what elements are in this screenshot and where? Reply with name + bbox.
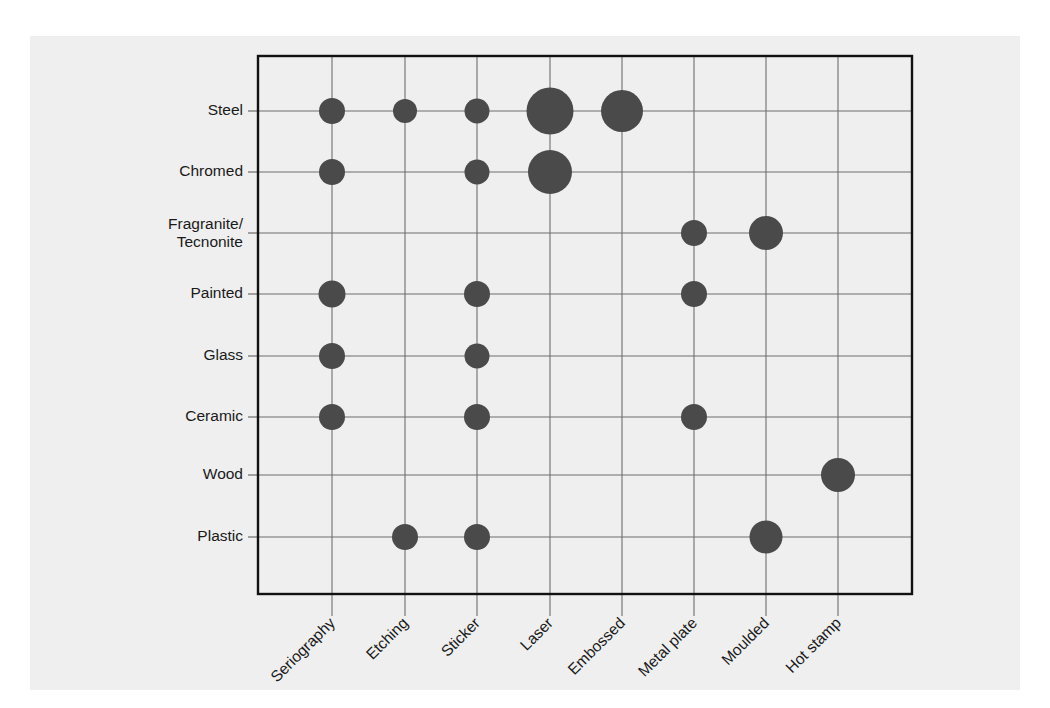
bubble-chromed-seriography[interactable]	[319, 159, 345, 185]
x-axis-label-moulded: Moulded	[718, 614, 772, 668]
x-axis-label-laser: Laser	[517, 614, 556, 653]
bubble-ceramic-metal-plate[interactable]	[681, 404, 707, 430]
x-axis-label-sticker: Sticker	[438, 614, 484, 660]
bubble-matrix-svg: SteelChromedFragranite/TecnonitePaintedG…	[0, 0, 1050, 708]
bubble-series	[319, 88, 856, 554]
bubble-fragranite-tecnonite-moulded[interactable]	[749, 216, 783, 250]
bubble-chromed-sticker[interactable]	[465, 160, 490, 185]
bubble-painted-sticker[interactable]	[464, 281, 490, 307]
y-axis-label-plastic: Plastic	[197, 527, 243, 544]
bubble-fragranite-tecnonite-metal-plate[interactable]	[681, 220, 707, 246]
y-axis-label-glass: Glass	[203, 346, 243, 363]
plot-frame	[258, 56, 912, 594]
bubble-steel-sticker[interactable]	[465, 99, 490, 124]
y-axis-label-steel: Steel	[208, 101, 243, 118]
bubble-painted-metal-plate[interactable]	[681, 281, 707, 307]
bubble-plastic-sticker[interactable]	[464, 524, 490, 550]
y-axis-label-wood: Wood	[203, 465, 243, 482]
bubble-glass-seriography[interactable]	[319, 343, 345, 369]
y-axis-ticks	[248, 111, 258, 537]
bubble-painted-seriography[interactable]	[319, 281, 346, 308]
x-axis-labels: SeriographyEtchingStickerLaserEmbossedMe…	[267, 614, 844, 685]
x-axis-label-seriography: Seriography	[267, 614, 338, 685]
bubble-steel-embossed[interactable]	[601, 90, 643, 132]
bubble-steel-etching[interactable]	[393, 99, 417, 123]
y-axis-label-fragranite-tecnonite: Fragranite/Tecnonite	[168, 215, 244, 250]
y-axis-labels: SteelChromedFragranite/TecnonitePaintedG…	[168, 101, 244, 544]
bubble-glass-sticker[interactable]	[465, 344, 490, 369]
x-axis-label-embossed: Embossed	[564, 614, 628, 678]
x-axis-label-metal-plate: Metal plate	[634, 614, 700, 680]
y-axis-label-chromed: Chromed	[179, 162, 243, 179]
bubble-ceramic-seriography[interactable]	[319, 404, 345, 430]
bubble-plastic-etching[interactable]	[392, 524, 418, 550]
chart-page: SteelChromedFragranite/TecnonitePaintedG…	[0, 0, 1050, 708]
x-axis-label-etching: Etching	[363, 614, 412, 663]
bubble-plastic-moulded[interactable]	[750, 521, 783, 554]
bubble-steel-seriography[interactable]	[319, 98, 345, 124]
bubble-chromed-laser[interactable]	[528, 150, 572, 194]
x-axis-label-hot-stamp: Hot stamp	[782, 614, 844, 676]
horizontal-gridlines	[258, 111, 912, 537]
bubble-steel-laser[interactable]	[527, 88, 574, 135]
y-axis-label-painted: Painted	[190, 284, 243, 301]
bubble-wood-hot-stamp[interactable]	[821, 458, 855, 492]
bubble-ceramic-sticker[interactable]	[464, 404, 490, 430]
y-axis-label-ceramic: Ceramic	[185, 407, 243, 424]
bubble-matrix-chart: SteelChromedFragranite/TecnonitePaintedG…	[0, 0, 1050, 708]
